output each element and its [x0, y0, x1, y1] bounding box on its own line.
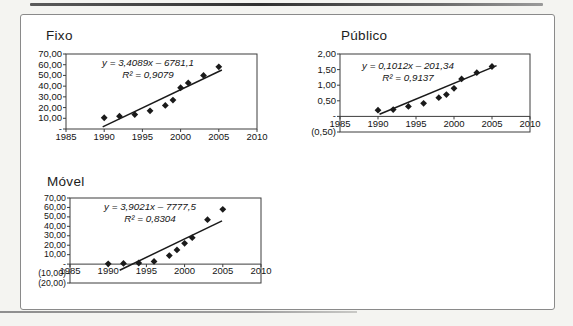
charts-panel	[20, 14, 555, 310]
figure-canvas: Fixo y = 3,4089x – 6781,1 R² = 0,9079 70…	[0, 0, 573, 326]
bottom-divider	[0, 311, 357, 313]
top-divider	[30, 3, 543, 6]
